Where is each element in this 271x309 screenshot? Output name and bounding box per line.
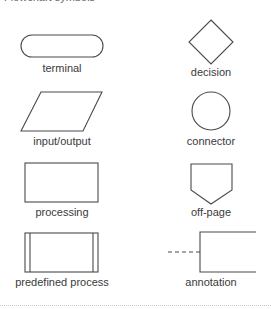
- annotation-shape-icon: [0, 0, 271, 309]
- divider: [0, 305, 271, 306]
- annotation-label: annotation: [171, 276, 251, 288]
